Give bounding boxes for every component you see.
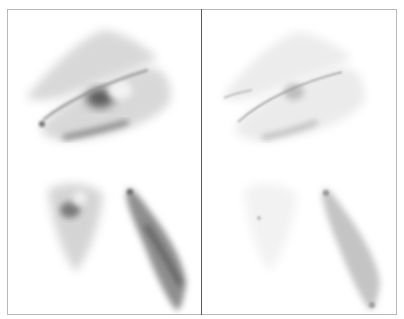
micrograph-panel-right <box>202 10 396 314</box>
cell-lower-left <box>48 184 103 272</box>
cell-lower-right <box>322 188 380 310</box>
cell-lower-right <box>126 188 186 310</box>
micrograph-panel-left <box>8 10 201 314</box>
cell-lower-left <box>244 184 297 272</box>
